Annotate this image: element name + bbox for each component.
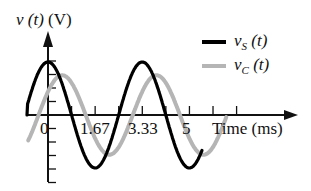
y-label-symbol: v xyxy=(16,10,24,29)
x-tick-label: 0 xyxy=(40,120,49,137)
y-label-unit: (V) xyxy=(48,10,72,29)
y-axis-arrow-icon xyxy=(43,31,53,47)
x-axis-label: Time (ms) xyxy=(212,120,283,137)
x-tick-label: 5 xyxy=(182,120,191,137)
x-axis-arrow-icon xyxy=(284,110,298,120)
legend: vS (t) vC (t) xyxy=(202,30,269,78)
legend-item-vs: vS (t) xyxy=(202,30,269,54)
legend-swatch-vs xyxy=(202,40,226,44)
legend-label-vc: vC (t) xyxy=(234,55,269,76)
legend-item-vc: vC (t) xyxy=(202,54,269,78)
x-tick-label: 1.67 xyxy=(80,120,110,137)
legend-swatch-vc xyxy=(202,64,226,68)
legend-label-vs: vS (t) xyxy=(234,31,267,52)
x-tick-label: 3.33 xyxy=(128,120,158,137)
y-axis-label: v (t) (V) xyxy=(16,11,72,28)
y-label-arg: (t) xyxy=(28,10,44,29)
x-axis-ticks xyxy=(72,106,237,115)
